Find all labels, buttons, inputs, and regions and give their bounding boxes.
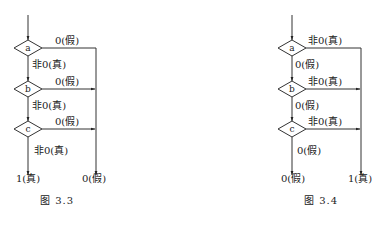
figure-caption: 图 3.3 (40, 192, 74, 207)
decision-node-b: b (286, 84, 298, 94)
branch-label-b-down: 0(假) (295, 100, 319, 111)
output-left: 1(真) (16, 173, 40, 184)
figure-caption: 图 3.4 (304, 192, 338, 207)
branch-label-b-right: 0(假) (55, 76, 79, 87)
decision-node-b: b (22, 84, 34, 94)
branch-label-b-down: 非0(真) (32, 100, 66, 111)
decision-node-a: a (22, 43, 34, 53)
branch-label-a-right: 0(假) (55, 35, 79, 46)
output-right: 1(真) (348, 173, 372, 184)
branch-label-a-down: 非0(真) (32, 59, 66, 70)
branch-label-a-right: 非0(真) (308, 35, 342, 46)
decision-node-a: a (286, 43, 298, 53)
branch-label-c-down: 非0(真) (34, 145, 68, 156)
output-right: 0(假) (82, 173, 106, 184)
output-left: 0(假) (281, 173, 305, 184)
decision-node-c: c (286, 124, 298, 134)
decision-node-c: c (22, 124, 34, 134)
branch-label-c-down: 0(假) (297, 145, 321, 156)
branch-label-c-right: 非0(真) (308, 116, 342, 127)
branch-label-a-down: 0(假) (295, 59, 319, 70)
branch-label-b-right: 非0(真) (308, 76, 342, 87)
branch-label-c-right: 0(假) (55, 116, 79, 127)
